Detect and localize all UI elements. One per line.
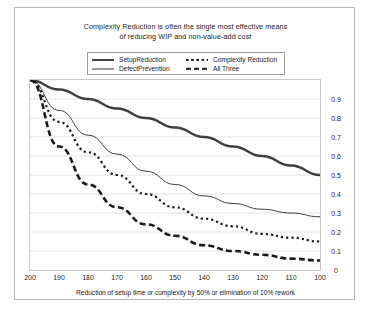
- plot-area: [29, 79, 321, 271]
- x-tick-label: 100: [308, 274, 332, 282]
- x-axis-title: Reduction of setup time or complexity by…: [15, 289, 356, 297]
- legend-entry-complexity-reduction[interactable]: Complexity Reduction: [186, 55, 280, 64]
- y-tick-label: 0.1: [325, 248, 347, 255]
- x-tick-label: 140: [192, 274, 216, 282]
- chart-legend: SetupReduction Complexity Reduction Defe…: [87, 52, 285, 75]
- legend-label-setup-reduction: SetupReduction: [119, 55, 166, 64]
- legend-label-all-three: All Three: [213, 64, 239, 73]
- y-tick-label: 0: [325, 267, 347, 274]
- legend-label-complexity-reduction: Complexity Reduction: [213, 55, 277, 64]
- y-tick-label: 0.7: [325, 134, 347, 141]
- legend-row-1: SetupReduction Complexity Reduction: [92, 55, 280, 64]
- chart-title: Complexity Reduction is often the single…: [15, 22, 356, 41]
- series-lines: [30, 80, 320, 261]
- chart-screenshot: Complexity Reduction is often the single…: [0, 0, 369, 312]
- legend-line-dashed-icon: [186, 65, 208, 72]
- x-tick-label: 120: [250, 274, 274, 282]
- legend-line-solid-thin-icon: [92, 65, 114, 72]
- y-tick-label: 0.2: [325, 229, 347, 236]
- chart-title-line-2: of reducing WIP and non-value-add cost: [15, 32, 356, 42]
- x-tick-label: 160: [134, 274, 158, 282]
- x-tick-label: 200: [18, 274, 42, 282]
- x-tick-label: 180: [76, 274, 100, 282]
- y-tick-label: 0.4: [325, 191, 347, 198]
- legend-entry-defect-prevention[interactable]: DefectPrevention: [92, 64, 186, 73]
- x-tick-label: 130: [221, 274, 245, 282]
- x-tick-label: 110: [279, 274, 303, 282]
- y-tick-label: 0.6: [325, 153, 347, 160]
- chart-frame: Complexity Reduction is often the single…: [14, 7, 355, 300]
- plot-canvas: [30, 80, 320, 270]
- x-tick-label: 170: [105, 274, 129, 282]
- legend-entry-setup-reduction[interactable]: SetupReduction: [92, 55, 186, 64]
- legend-line-dotted-icon: [186, 56, 208, 63]
- x-tick-label: 190: [47, 274, 71, 282]
- series-line-all-three: [30, 80, 320, 261]
- y-tick-label: 0.8: [325, 115, 347, 122]
- legend-row-2: DefectPrevention All Three: [92, 64, 280, 73]
- y-axis: 0.90.80.70.60.50.40.30.20.10: [325, 79, 355, 271]
- legend-label-defect-prevention: DefectPrevention: [119, 64, 170, 73]
- legend-entry-all-three[interactable]: All Three: [186, 64, 280, 73]
- series-line-setupreduction: [30, 80, 320, 175]
- y-tick-label: 0.5: [325, 172, 347, 179]
- x-axis: 200190180170160150140130120110100: [29, 274, 321, 284]
- series-line-defectprevention: [30, 80, 320, 217]
- x-tick-label: 150: [163, 274, 187, 282]
- legend-line-solid-thick-icon: [92, 56, 114, 63]
- chart-title-line-1: Complexity Reduction is often the single…: [15, 22, 356, 32]
- y-tick-label: 0.9: [325, 96, 347, 103]
- y-tick-label: 0.3: [325, 210, 347, 217]
